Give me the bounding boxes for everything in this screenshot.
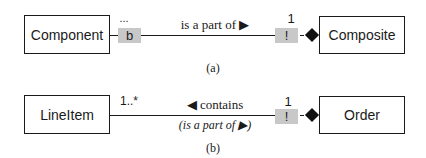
class-box-composite: Composite xyxy=(319,16,405,54)
multiplicity-left: 1..* xyxy=(120,94,138,108)
association-label: is a part of ▶ xyxy=(150,17,280,33)
association-line xyxy=(141,35,275,36)
caption-a: (a) xyxy=(198,61,228,76)
association-line-left-stub xyxy=(110,35,118,36)
role-marker-right: ! xyxy=(275,28,298,43)
class-name: Component xyxy=(31,27,103,43)
role-marker-left: b xyxy=(118,28,141,43)
association-label: ◀ contains xyxy=(150,97,280,113)
association-line-right-stub xyxy=(300,115,304,116)
association-sublabel: (is a part of ▶) xyxy=(150,118,280,133)
class-box-component: Component xyxy=(24,15,110,54)
composition-diamond-icon xyxy=(305,28,319,42)
multiplicity-right: 1 xyxy=(281,11,301,26)
role-marker-right: ! xyxy=(275,109,298,124)
class-box-lineitem: LineItem xyxy=(24,95,110,134)
composition-diamond-icon xyxy=(305,108,319,122)
class-name: Order xyxy=(344,107,380,123)
caption-b: (b) xyxy=(198,141,228,156)
class-name: LineItem xyxy=(40,107,94,123)
class-name: Composite xyxy=(329,27,396,43)
class-box-order: Order xyxy=(319,96,405,134)
multiplicity-right: 1 xyxy=(278,94,298,109)
multiplicity-left: ... xyxy=(114,12,134,24)
association-line-right-stub xyxy=(300,35,304,36)
association-line xyxy=(110,115,275,116)
